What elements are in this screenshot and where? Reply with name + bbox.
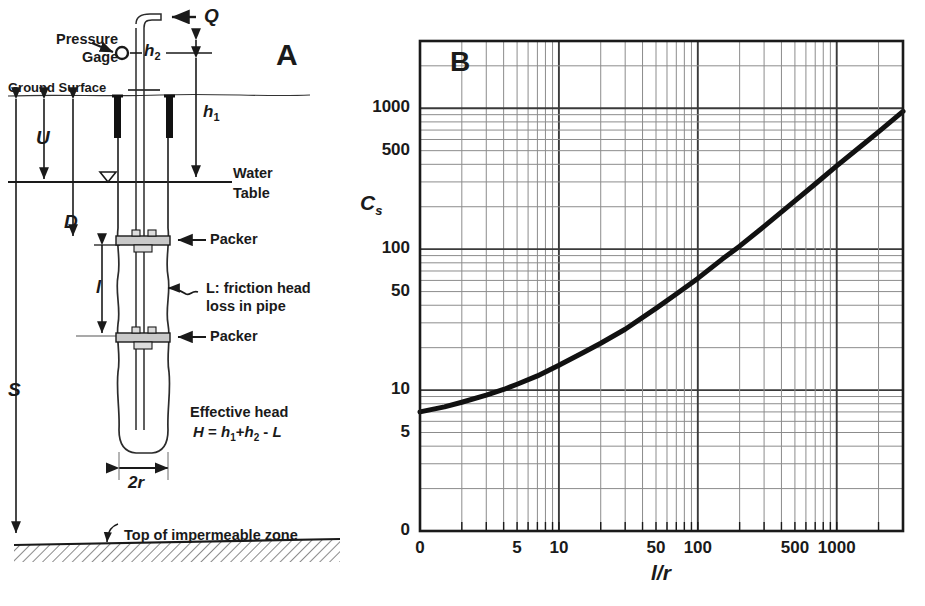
- y-tick-label: 10: [391, 380, 410, 397]
- x-tick-label: 100: [684, 539, 712, 556]
- y-tick-label: 5: [401, 423, 410, 440]
- figure-root: Pressure Gage Ground Surface Q h2 h1 U D…: [0, 0, 925, 606]
- x-tick-label: 0: [415, 539, 424, 556]
- y-tick-label: 500: [382, 141, 410, 158]
- y-tick-label: 0: [401, 521, 410, 538]
- panel-b-tag: B: [450, 48, 470, 76]
- chart-xlabel: l/r: [651, 562, 671, 583]
- y-tick-label: 1000: [372, 98, 410, 115]
- x-tick-label: 50: [647, 539, 666, 556]
- x-tick-label: 1000: [818, 539, 856, 556]
- panel-b-chart: [0, 0, 925, 606]
- x-tick-label: 10: [549, 539, 568, 556]
- x-tick-label: 5: [512, 539, 521, 556]
- y-tick-label: 50: [391, 282, 410, 299]
- chart-gridlines: [420, 41, 903, 531]
- chart-tick-marks: [420, 522, 903, 531]
- chart-ylabel: Cs: [360, 192, 382, 217]
- y-tick-label: 100: [382, 239, 410, 256]
- x-tick-label: 500: [781, 539, 809, 556]
